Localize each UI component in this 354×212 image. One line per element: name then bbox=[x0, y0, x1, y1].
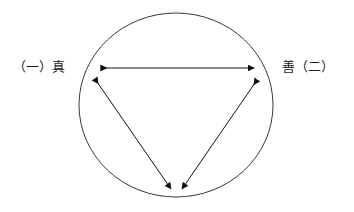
vertex-label-left: （一）真 bbox=[13, 60, 65, 73]
outer-circle bbox=[79, 13, 273, 197]
arrow-right-bottom bbox=[182, 80, 257, 189]
triad-circle-diagram bbox=[0, 0, 354, 212]
diagram-canvas: （一）真 善（二） bbox=[0, 0, 354, 212]
arrow-left-bottom bbox=[95, 79, 171, 189]
vertex-label-right: 善（二） bbox=[282, 60, 334, 73]
